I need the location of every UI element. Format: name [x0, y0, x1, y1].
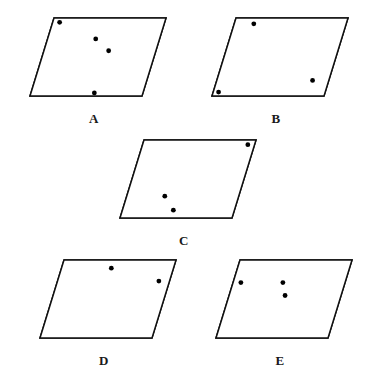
parallelogram-edge: [40, 260, 176, 338]
marker-dot: [283, 293, 288, 298]
parallelogram-edge: [30, 18, 166, 96]
marker-dot: [93, 37, 98, 42]
parallelogram-edge: [212, 18, 348, 96]
marker-dot: [109, 266, 114, 271]
figure-drawing-e: [200, 250, 360, 350]
figure-option-e[interactable]: E: [200, 250, 360, 372]
parallelogram-edge: [120, 140, 256, 218]
marker-dot: [92, 90, 97, 95]
figure-option-d[interactable]: D: [24, 250, 184, 372]
marker-dot: [162, 194, 167, 199]
marker-dot: [57, 20, 62, 25]
marker-dot: [238, 280, 243, 285]
figure-drawing-b: [196, 8, 356, 108]
figure-label-a: A: [14, 112, 174, 125]
marker-dot: [280, 280, 285, 285]
marker-dot: [251, 21, 256, 26]
figure-drawing-a: [14, 8, 174, 108]
marker-dot: [216, 90, 221, 95]
marker-dot: [245, 142, 250, 147]
marker-dot: [156, 279, 161, 284]
figure-label-b: B: [196, 112, 356, 125]
figure-option-a[interactable]: A: [14, 8, 174, 130]
marker-dot: [171, 208, 176, 213]
figure-matrix-canvas: ABCDE: [0, 0, 373, 373]
figure-option-b[interactable]: B: [196, 8, 356, 130]
figure-label-c: C: [104, 234, 264, 247]
figure-label-d: D: [24, 354, 184, 367]
figure-label-e: E: [200, 354, 360, 367]
marker-dot: [310, 78, 315, 83]
figure-drawing-d: [24, 250, 184, 350]
figure-option-c[interactable]: C: [104, 130, 264, 252]
parallelogram-edge: [216, 260, 352, 338]
marker-dot: [106, 48, 111, 53]
figure-drawing-c: [104, 130, 264, 230]
